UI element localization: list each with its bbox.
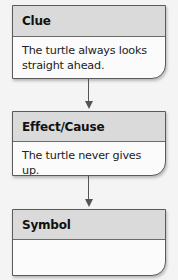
clue-box: Clue The turtle always looks straight ah… [12, 5, 166, 79]
symbol-box-header: Symbol [13, 210, 165, 240]
connector-line-2 [88, 176, 89, 201]
clue-box-header: Clue [13, 6, 165, 37]
effect-cause-box-header: Effect/Cause [13, 112, 165, 142]
clue-box-body: The turtle always looks straight ahead. [13, 37, 165, 73]
effect-cause-box-body: The turtle never gives up. [13, 142, 165, 176]
symbol-box-body [13, 240, 165, 246]
arrow-down-icon [85, 199, 93, 207]
symbol-box: Symbol [12, 209, 166, 276]
effect-cause-box: Effect/Cause The turtle never gives up. [12, 111, 166, 176]
connector-line-1 [88, 79, 89, 103]
arrow-down-icon [85, 101, 93, 109]
